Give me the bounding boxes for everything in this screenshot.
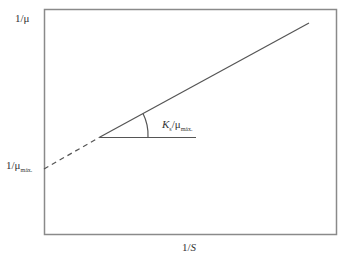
x-axis-italic: S [191, 241, 197, 253]
y-intercept-main: 1/μ [6, 159, 20, 171]
slope-sep: /μ [172, 118, 181, 130]
slope-label: Ks/μmáx. [162, 119, 193, 132]
slope-angle-arc [143, 114, 148, 138]
y-intercept-sub: máx. [20, 167, 32, 173]
slope-mu-sub: máx. [181, 126, 193, 132]
data-line [100, 23, 309, 137]
y-axis-label: 1/μ [15, 13, 29, 24]
y-intercept-label: 1/μmáx. [6, 160, 32, 173]
x-axis-main: 1/ [182, 241, 191, 253]
extrapolated-dashed-line [44, 137, 100, 169]
x-axis-label: 1/S [182, 242, 196, 253]
